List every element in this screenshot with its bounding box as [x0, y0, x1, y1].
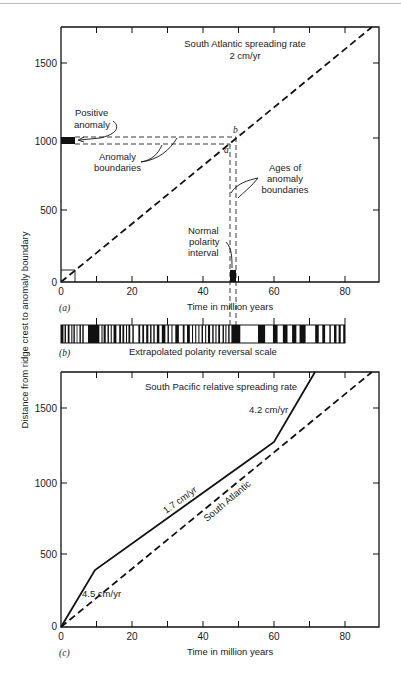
panel-c-x-label-80: 80 [339, 631, 351, 642]
point-b-label: b [233, 125, 238, 135]
normal-polarity-stripe [208, 325, 210, 343]
normal-polarity-stripe [162, 325, 166, 343]
normal-polarity-stripe [71, 325, 72, 343]
normal-polarity-label-2: polarity [189, 236, 220, 247]
panel-a-y-label-1000: 1000 [35, 136, 58, 147]
normal-polarity-stripe [108, 325, 109, 343]
panel-c-x-label-0: 0 [58, 631, 64, 642]
panel-a-x-ticks [97, 276, 346, 282]
y-axis-title: Distance from ridge crest to anomaly bou… [19, 231, 30, 428]
normal-polarity-stripe [273, 325, 278, 343]
normal-polarity-stripe [82, 325, 83, 343]
normal-polarity-stripe [195, 325, 196, 343]
panel-a-top-ticks [97, 27, 346, 33]
normal-polarity-stripe [73, 325, 74, 343]
normal-polarity-stripe [114, 325, 117, 343]
panel-c-x-label-40: 40 [197, 631, 209, 642]
ages-label-2: anomaly [267, 173, 303, 184]
panel-c-x-ticks [97, 621, 346, 627]
positive-anomaly-label-1: Positive [75, 107, 108, 118]
rate-label-4-2: 4.2 cm/yr [249, 404, 288, 415]
normal-polarity-stripe [79, 325, 80, 343]
positive-anomaly-label-2: anomaly [74, 119, 110, 130]
normal-polarity-stripe [315, 325, 319, 343]
normal-polarity-stripe [142, 325, 144, 343]
normal-polarity-stripe [168, 325, 169, 343]
normal-polarity-stripe [198, 325, 199, 343]
ages-arrow-1-icon [231, 178, 258, 193]
panel-c-y-label-0: 0 [51, 621, 57, 632]
panel-a-x-label-60: 60 [268, 286, 280, 297]
normal-polarity-stripe [212, 325, 213, 343]
normal-polarity-stripe [175, 325, 179, 343]
panel-b-ticks [97, 318, 346, 325]
panel-a-y-ticks [61, 63, 379, 210]
normal-polarity-stripe [150, 325, 151, 343]
panel-a-y-label-1500: 1500 [35, 58, 58, 69]
panel-a-label: (a) [59, 303, 70, 314]
panel-a-y-label-500: 500 [40, 205, 57, 216]
panel-a-chart: 1500 1000 500 0 0 20 40 60 80 (a) Time i… [35, 27, 379, 340]
normal-polarity-stripe [292, 325, 296, 343]
normal-polarity-stripe [231, 325, 240, 343]
panel-b-label: (b) [59, 348, 70, 359]
normal-polarity-stripe [153, 325, 154, 343]
normal-polarity-stripe [223, 325, 224, 343]
normal-polarity-stripe [77, 325, 78, 343]
positive-anomaly-block [61, 137, 75, 144]
normal-polarity-stripe [88, 325, 99, 343]
sea-floor-spreading-figure: 1500 1000 500 0 0 20 40 60 80 (a) Time i… [0, 0, 401, 695]
normal-polarity-stripe [339, 325, 341, 343]
normal-polarity-stripe [171, 325, 172, 343]
normal-polarity-stripe [202, 325, 203, 343]
normal-polarity-stripe [111, 325, 112, 343]
normal-polarity-interval-block [230, 270, 236, 282]
normal-polarity-stripe [126, 325, 127, 343]
normal-polarity-stripe [225, 325, 226, 343]
panel-c-x-label-20: 20 [126, 631, 138, 642]
panel-c-x-label-60: 60 [268, 631, 280, 642]
normal-polarity-stripe [205, 325, 206, 343]
normal-polarity-stripe [146, 325, 148, 343]
normal-polarity-stripe [218, 325, 220, 343]
normal-polarity-arrow-icon [226, 242, 232, 268]
normal-polarity-stripe [300, 325, 306, 343]
ages-label-3: boundaries [261, 184, 308, 195]
normal-polarity-stripe [104, 325, 106, 343]
anomaly-boundaries-label-2: boundaries [94, 162, 141, 173]
panel-a-title: South Atlantic spreading rate [184, 38, 305, 49]
panel-b-polarity-scale: (b) Extrapolated polarity reversal scale [59, 318, 345, 359]
panel-c-y-label-1500: 1500 [35, 403, 58, 414]
normal-polarity-stripe [122, 325, 124, 343]
normal-polarity-stripe [343, 325, 345, 343]
normal-polarity-label-1: Normal [188, 225, 219, 236]
panel-a-subtitle: 2 cm/yr [229, 50, 260, 61]
normal-polarity-stripe [215, 325, 216, 343]
panel-a-x-label-0: 0 [58, 286, 64, 297]
normal-polarity-stripe [128, 325, 130, 343]
normal-polarity-stripe [101, 325, 102, 343]
panel-a-y-label-0: 0 [51, 277, 57, 288]
normal-polarity-stripe [228, 325, 229, 343]
panel-c-x-axis-title: Time in million years [187, 646, 273, 657]
normal-polarity-stripe [322, 325, 325, 343]
normal-polarity-stripe [65, 325, 66, 343]
panel-c-chart: 1500 1000 500 0 0 20 40 60 80 (c) Time i… [35, 372, 379, 659]
panel-a-x-label-80: 80 [339, 286, 351, 297]
panel-c-label: (c) [59, 648, 70, 659]
normal-polarity-stripe [61, 325, 63, 343]
point-a-label: a [224, 145, 229, 155]
panel-c-y-label-1000: 1000 [35, 478, 58, 489]
normal-polarity-stripe [258, 325, 265, 343]
panel-c-y-label-500: 500 [40, 549, 57, 560]
ages-label-1: Ages of [269, 162, 302, 173]
panel-b-title: Extrapolated polarity reversal scale [129, 346, 277, 357]
normal-polarity-stripe [138, 325, 140, 343]
panel-a-x-label-20: 20 [126, 286, 138, 297]
normal-polarity-stripe [283, 325, 288, 343]
normal-polarity-stripe [187, 325, 190, 343]
rate-label-4-5: 4.5 cm/yr [82, 588, 121, 599]
normal-polarity-stripe [334, 325, 336, 343]
panel-a-x-label-40: 40 [197, 286, 209, 297]
anomaly-boundaries-label-1: Anomaly [99, 151, 136, 162]
